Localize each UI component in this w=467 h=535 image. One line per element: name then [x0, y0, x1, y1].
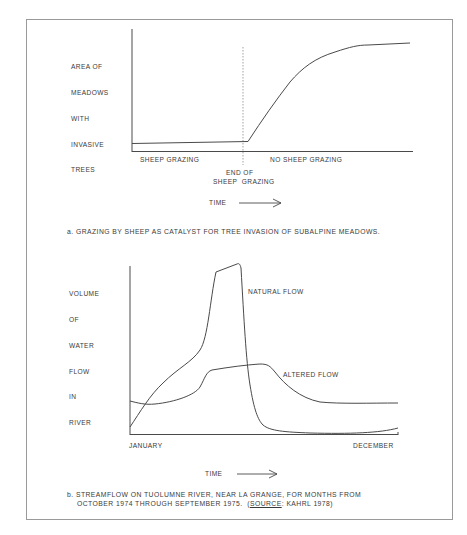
time-arrows: [237, 199, 281, 478]
chart-a-marker-label-line1: END OF: [226, 169, 253, 178]
chart-b-altered-flow-label: ALTERED FLOW: [283, 371, 339, 380]
chart-b-ylabel-line: FLOW: [69, 368, 99, 377]
chart-a-ylabel-line: WITH: [71, 115, 109, 124]
chart-a: [132, 29, 413, 165]
chart-b-ylabel-line: RIVER: [69, 419, 99, 428]
chart-a-region-left-label: SHEEP GRAZING: [140, 156, 199, 165]
caption-source-word: SOURCE: [250, 500, 282, 507]
chart-a-ylabel-line: MEADOWS: [71, 89, 109, 98]
caption-text: OCTOBER 1974 THROUGH SEPTEMBER 1975. (: [77, 500, 250, 507]
chart-a-region-right-label: NO SHEEP GRAZING: [270, 156, 342, 165]
chart-a-ylabel-line: AREA OF: [71, 63, 109, 72]
chart-a-y-axis-label: AREA OF MEADOWS WITH INVASIVE TREES: [71, 46, 109, 184]
chart-a-ylabel-line: INVASIVE: [71, 141, 109, 150]
chart-b-x-axis-label: TIME: [205, 470, 222, 479]
chart-a-x-axis-label: TIME: [209, 199, 226, 208]
chart-b-ylabel-line: OF: [69, 316, 99, 325]
chart-b-ylabel-line: WATER: [69, 342, 99, 351]
chart-a-marker-label-line2: SHEEP GRAZING: [213, 178, 275, 187]
chart-b-y-axis-label: VOLUME OF WATER FLOW IN RIVER: [69, 273, 99, 436]
chart-b-ylabel-line: IN: [69, 393, 99, 402]
chart-a-ylabel-line: TREES: [71, 166, 109, 175]
caption-text: : KAHRL 1978): [282, 500, 333, 507]
chart-b-caption-line2: OCTOBER 1974 THROUGH SEPTEMBER 1975. (SO…: [77, 499, 333, 509]
chart-b-ylabel-line: VOLUME: [69, 290, 99, 299]
chart-b-x-tick-december: DECEMBER: [353, 442, 394, 451]
chart-b-natural-flow-label: NATURAL FLOW: [248, 288, 304, 297]
chart-a-caption: a. GRAZING BY SHEEP AS CATALYST FOR TREE…: [67, 227, 380, 237]
chart-b-altered-flow-line: [130, 364, 398, 404]
chart-b-x-tick-january: JANUARY: [129, 442, 162, 451]
chart-a-series-line: [132, 43, 410, 144]
